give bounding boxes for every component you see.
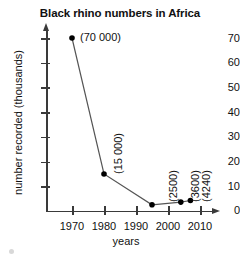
x-tick-mark: [72, 206, 74, 215]
x-axis-title: years: [86, 236, 166, 247]
x-tick-mark: [104, 206, 106, 215]
y-tick-label: 60: [212, 57, 240, 68]
y-tick-label: 40: [212, 107, 240, 118]
y-tick-label: 50: [212, 82, 240, 93]
y-axis-arrow-icon: [43, 23, 49, 31]
y-tick-label: 10: [212, 181, 240, 192]
y-tick-mark: [41, 186, 50, 188]
plot-area: 70 60 50 40 30 20 10 0 1970 1980 1990 20…: [0, 0, 240, 259]
y-tick-mark: [41, 63, 50, 65]
point-label-1970: (70 000): [80, 32, 121, 43]
y-tick-mark: [41, 87, 50, 89]
y-tick-label: 70: [212, 33, 240, 44]
y-tick-label: 0: [212, 205, 240, 216]
x-tick-mark: [200, 206, 202, 215]
x-tick-mark: [168, 206, 170, 215]
point-label-1995: (2500): [168, 170, 179, 202]
y-tick-label: 20: [212, 156, 240, 167]
point-label-2007: (4240): [201, 170, 212, 202]
point-label-1980: (15 000): [113, 133, 124, 174]
data-point-1980: [101, 171, 107, 177]
x-tick-label: 2010: [180, 221, 220, 232]
y-tick-mark: [41, 137, 50, 139]
data-point-1995: [149, 202, 155, 208]
y-tick-mark: [41, 162, 50, 164]
scan-artifact: [9, 249, 14, 254]
y-tick-mark: [41, 112, 50, 114]
chart-screenshot: Black rhino numbers in Africa 70 60 50 4…: [0, 0, 240, 259]
y-axis-line: [46, 30, 48, 212]
y-tick-label: 30: [212, 131, 240, 142]
x-tick-mark: [136, 206, 138, 215]
y-axis-title: number recorded (thousands): [13, 43, 24, 203]
data-point-1970: [69, 35, 75, 41]
y-tick-mark: [41, 38, 50, 40]
